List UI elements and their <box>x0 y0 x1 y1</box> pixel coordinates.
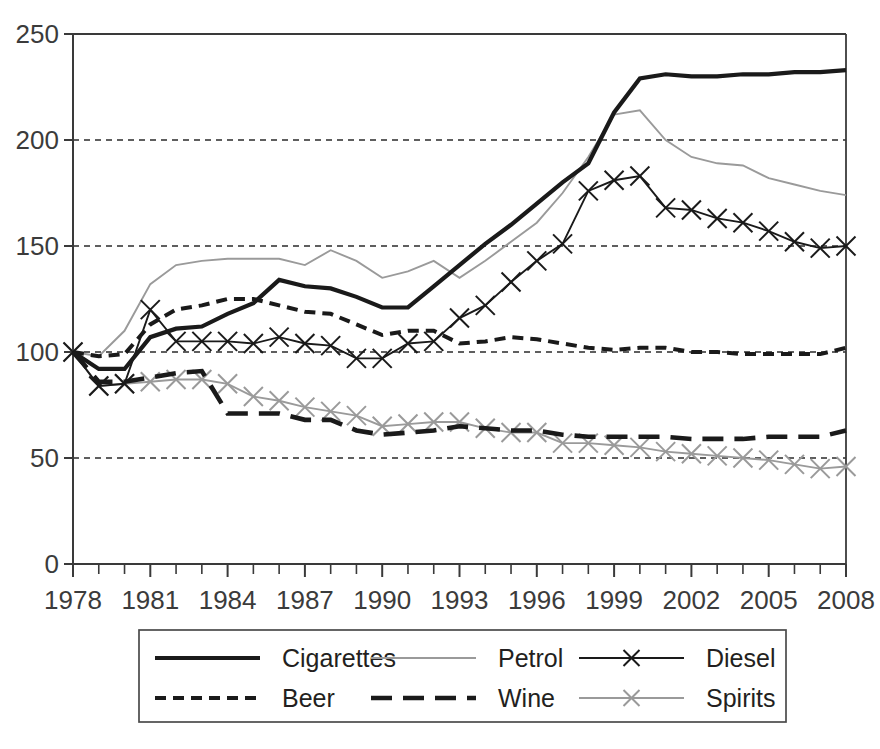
x-tick-label: 2002 <box>662 585 720 615</box>
y-axis-tick-labels: 050100150200250 <box>16 19 59 579</box>
legend-label: Beer <box>282 684 335 712</box>
legend-label: Wine <box>498 684 555 712</box>
y-tick-label: 250 <box>16 19 59 49</box>
x-tick-label: 1984 <box>199 585 257 615</box>
x-tick-label: 2008 <box>817 585 875 615</box>
page-bottom-text-fragment <box>0 735 880 749</box>
x-tick-label: 1978 <box>44 585 102 615</box>
x-tick-label: 1999 <box>585 585 643 615</box>
x-axis <box>73 564 846 577</box>
y-tick-label: 0 <box>45 549 59 579</box>
y-tick-label: 50 <box>30 443 59 473</box>
y-axis <box>64 34 73 564</box>
x-tick-label: 1981 <box>121 585 179 615</box>
x-tick-label: 2005 <box>740 585 798 615</box>
chart-legend: CigarettesPetrolDieselBeerWineSpirits <box>139 630 786 722</box>
x-tick-label: 1996 <box>508 585 566 615</box>
figure: 050100150200250 197819811984198719901993… <box>0 0 880 749</box>
x-tick-label: 1987 <box>276 585 334 615</box>
y-tick-label: 200 <box>16 125 59 155</box>
legend-label: Petrol <box>498 644 563 672</box>
x-axis-tick-labels: 1978198119841987199019931996199920022005… <box>44 585 875 615</box>
x-tick-label: 1990 <box>353 585 411 615</box>
x-tick-label: 1993 <box>431 585 489 615</box>
legend-label: Diesel <box>706 644 775 672</box>
line-chart: 050100150200250 197819811984198719901993… <box>0 0 880 749</box>
legend-label: Spirits <box>706 684 775 712</box>
plot-background <box>73 34 846 564</box>
y-tick-label: 150 <box>16 231 59 261</box>
y-tick-label: 100 <box>16 337 59 367</box>
legend-box <box>139 630 786 722</box>
